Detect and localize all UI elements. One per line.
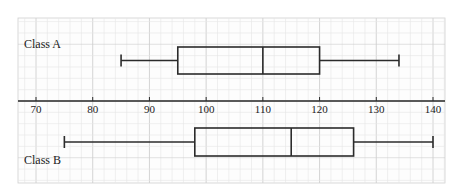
x-tick-label: 130 xyxy=(368,103,385,115)
x-tick-label: 110 xyxy=(255,103,272,115)
x-tick-label: 100 xyxy=(198,103,215,115)
x-tick-label: 120 xyxy=(311,103,328,115)
box-plot-chart: 708090100110120130140 Class A Class B xyxy=(0,0,463,193)
class-b-label: Class B xyxy=(24,153,61,167)
x-tick-label: 140 xyxy=(425,103,442,115)
x-tick-label: 90 xyxy=(144,103,156,115)
x-tick-label: 80 xyxy=(87,103,99,115)
x-tick-label: 70 xyxy=(31,103,43,115)
class-a-label: Class A xyxy=(24,37,61,51)
